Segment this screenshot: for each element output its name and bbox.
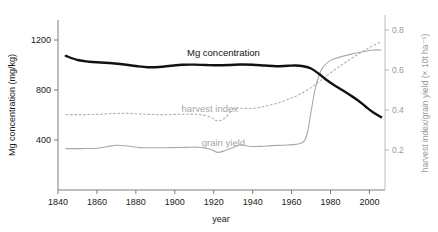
right-axis-ticks (385, 30, 389, 150)
chart-canvas: 4008001200 Mg concentration (mg/kg) 1840… (0, 0, 438, 232)
x-tick-label: 2000 (359, 197, 379, 207)
right-tick-label: 0.8 (392, 25, 404, 35)
left-axis-ticks (54, 40, 58, 140)
x-tick-label: 1860 (87, 197, 107, 207)
x-tick-label: 1980 (320, 197, 340, 207)
x-tick-label: 1840 (48, 197, 68, 207)
x-tick-label: 1940 (243, 197, 263, 207)
right-tick-label: 0.6 (392, 65, 404, 75)
left-axis-title: Mg concentration (mg/kg) (7, 54, 17, 156)
right-tick-label: 0.4 (392, 105, 404, 115)
series-annotations: Mg concentrationharvest indexgrain yield (182, 47, 260, 148)
x-axis-title: year (212, 214, 230, 224)
right-tick-label: 0.2 (392, 145, 404, 155)
bottom-axis: 184018601880190019201940196019802000 yea… (48, 190, 385, 224)
bottom-axis-ticks (58, 190, 369, 194)
x-tick-label: 1920 (204, 197, 224, 207)
label-grain-yield: grain yield (202, 137, 245, 148)
label-mg-concentration: Mg concentration (187, 47, 260, 58)
right-axis-tick-labels: 0.20.40.60.8 (392, 25, 404, 155)
left-tick-label: 800 (36, 85, 51, 95)
right-axis: 0.20.40.60.8 harvest index/grain yield (… (385, 15, 430, 190)
left-tick-label: 1200 (31, 35, 51, 45)
left-axis: 4008001200 Mg concentration (mg/kg) (7, 20, 58, 190)
left-axis-tick-labels: 4008001200 (31, 35, 51, 145)
x-tick-label: 1960 (282, 197, 302, 207)
series-curves (66, 42, 381, 153)
magnesium-yield-chart: 4008001200 Mg concentration (mg/kg) 1840… (0, 0, 438, 232)
x-tick-label: 1880 (126, 197, 146, 207)
right-axis-title: harvest index/grain yield (× 10t ha⁻¹) (420, 34, 430, 173)
x-tick-label: 1900 (165, 197, 185, 207)
bottom-axis-tick-labels: 184018601880190019201940196019802000 (48, 197, 379, 207)
label-harvest-index: harvest index (182, 103, 239, 114)
left-tick-label: 400 (36, 135, 51, 145)
